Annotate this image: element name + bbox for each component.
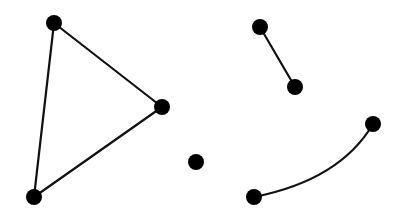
node-b <box>154 99 170 115</box>
node-g <box>365 116 381 132</box>
node-e <box>252 19 268 35</box>
edge <box>34 23 54 197</box>
node-h <box>246 189 262 205</box>
node-d <box>188 154 204 170</box>
edges-layer <box>34 23 373 197</box>
node-c <box>26 189 42 205</box>
node-f <box>287 79 303 95</box>
graph-diagram <box>0 0 401 213</box>
edge <box>54 23 162 107</box>
edge <box>34 107 162 197</box>
node-a <box>46 15 62 31</box>
edge <box>260 27 295 87</box>
curved-edge <box>254 124 373 197</box>
